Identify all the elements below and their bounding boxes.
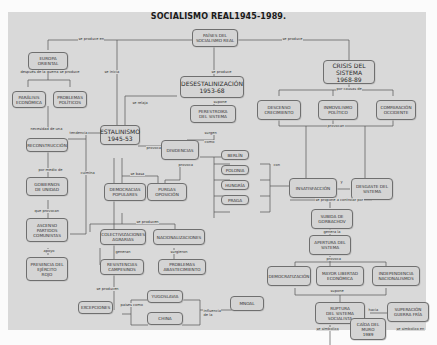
node-berlin[interactable]: BERLÍN	[221, 150, 249, 160]
node-insatisfaccion[interactable]: INSATISFACCIÓN	[289, 178, 337, 198]
node-problemas-abastecimiento[interactable]: PROBLEMAS ABASTECIMIENTO	[158, 259, 206, 275]
node-descenso-crecimiento[interactable]: DESCENSO CRECIMIENTO	[257, 100, 301, 120]
node-reconstruccion[interactable]: RECONSTRUCCIÓN	[26, 138, 68, 152]
label-como: como	[204, 140, 215, 144]
node-purgas-oposicion[interactable]: PURGAS OPOSICIÓN	[147, 183, 187, 201]
node-disidencias[interactable]: DISIDENCIAS	[161, 140, 199, 160]
label-supone: supone	[213, 100, 227, 104]
node-praga[interactable]: PRAGA	[221, 195, 249, 205]
node-paralisis-economica[interactable]: PARÁLISIS ECONÓMICA	[12, 91, 46, 108]
label-se-produce-2: se produce	[211, 70, 232, 74]
label-se-simboliza-en: se simboliza en	[396, 327, 425, 331]
label-se-simboliza: se simboliza	[316, 327, 339, 331]
link-europa-sub	[28, 73, 70, 87]
node-apertura-sistema[interactable]: APERTURA DEL SISTEMA	[309, 235, 351, 255]
label-generan: generan	[115, 250, 131, 254]
label-con: con	[273, 163, 280, 167]
node-desgaste-sistema[interactable]: DESGASTE DEL SISTEMA	[351, 178, 393, 200]
link-countries-insat	[260, 164, 290, 212]
node-democracias-populares[interactable]: DEMOCRACIAS POPULARES	[104, 183, 146, 201]
label-se-producen: se producen	[136, 220, 159, 224]
label-paises-como: países como	[120, 303, 143, 307]
label-genera: genera la	[323, 230, 341, 234]
node-yugoslavia[interactable]: YUGOSLAVIA	[147, 290, 183, 303]
node-ascenso-partidos[interactable]: ASCENSO PARTIDOS COMUNISTAS	[26, 218, 68, 242]
label-se-produce: se produce	[282, 37, 303, 41]
label-surgieron: surgieron	[170, 250, 188, 254]
label-se-basa: se basa	[130, 172, 145, 176]
label-por-causas: por causas de	[336, 87, 362, 91]
label-provoca: provoca	[146, 146, 161, 150]
label-se-propone: se propone a controlar por	[315, 198, 364, 202]
node-crisis-sistema[interactable]: CRISIS DEL SISTEMA 1968-89	[323, 60, 375, 84]
node-gobiernos-unidad[interactable]: GOBIERNOS DE UNIDAD	[26, 177, 68, 196]
node-mayor-libertad-economica[interactable]: MAYOR LIBERTAD ECONÓMICA	[316, 266, 364, 286]
node-independencia-nacionalismos[interactable]: INDEPENDENCIA NACIONALISMOS	[372, 266, 420, 286]
node-polonia[interactable]: POLONIA	[221, 165, 249, 175]
node-mnoal[interactable]: MNOAL	[230, 296, 264, 311]
node-problemas-politicos[interactable]: PROBLEMAS POLÍTICOS	[53, 91, 87, 108]
node-paises-socialismo-real[interactable]: PAÍSES DEL SOCIALISMO REAL	[192, 29, 238, 47]
label-provocan: provocan	[327, 124, 345, 128]
label-surgen: surgen	[204, 131, 217, 135]
node-perestroika[interactable]: PERESTROIKA DEL SISTEMA	[190, 105, 236, 123]
label-despues-guerra: después de la guerra se produce	[20, 70, 80, 74]
label-se-relaja: se relaja	[132, 101, 148, 105]
label-culmina: culmina	[80, 171, 95, 175]
label-tendencia: tendencia	[69, 131, 88, 135]
node-china[interactable]: CHINA	[147, 312, 183, 325]
node-colectivizaciones-agrarias[interactable]: COLECTIVIZACIONES AGRARIAS	[100, 229, 146, 245]
node-subida-gorbachov[interactable]: SUBIDA DE GORBACHOV	[311, 209, 353, 229]
label-se-inicia: se inicia	[104, 70, 120, 74]
label-provoca-2: provoca	[178, 163, 193, 167]
label-y: y	[340, 180, 343, 184]
node-excepciones[interactable]: EXCEPCIONES	[78, 301, 113, 314]
label-hacia: hacia	[368, 308, 379, 312]
node-democratizacion[interactable]: DEMOCRATIZACIÓN	[267, 266, 311, 286]
node-hungria[interactable]: HUNGRÍA	[221, 180, 249, 190]
label-se-producen-2: se producen	[96, 287, 119, 291]
label-se-produce-en: se produce en	[78, 37, 104, 41]
node-caida-muro[interactable]: CAÍDA DEL MURO 1989	[350, 318, 386, 340]
label-que-provocan: que provocan	[34, 209, 60, 213]
label-provoca-3: provoca	[326, 257, 341, 261]
node-europa-oriental[interactable]: EUROPA ORIENTAL	[28, 52, 68, 70]
label-necesidad: necesidad de una	[30, 127, 63, 131]
node-nacionalizaciones[interactable]: NACIONALIZACIONES	[153, 229, 205, 245]
label-supone-2: supone	[330, 289, 344, 293]
label-apoyo: apoyo	[43, 249, 55, 253]
link-paises-europa	[48, 40, 192, 50]
label-influencia: influencia de la	[203, 309, 221, 317]
node-superacion-guerra-fria[interactable]: SUPERACIÓN GUERRA FRÍA	[387, 302, 429, 322]
node-desestalinizacion[interactable]: DESESTALINIZACIÓN 1953-68	[180, 76, 244, 98]
node-estalinismo[interactable]: ESTALINISMO 1945-53	[100, 125, 140, 145]
node-presencia-ejercito[interactable]: PRESENCIA DEL EJÉRCITO ROJO	[26, 257, 68, 281]
label-por-medio: por medio de	[38, 168, 63, 172]
node-resistencias-campesinos[interactable]: RESISTENCIAS CAMPESINOS	[100, 259, 144, 275]
link-ascenso-estal	[70, 139, 86, 234]
link-paises-crisis	[235, 40, 349, 60]
node-comparacion-occidente[interactable]: COMPARACIÓN OCCIDENTE	[376, 100, 416, 120]
node-inmovilismo-politico[interactable]: INMOVILISMO POLÍTICO	[318, 100, 358, 120]
